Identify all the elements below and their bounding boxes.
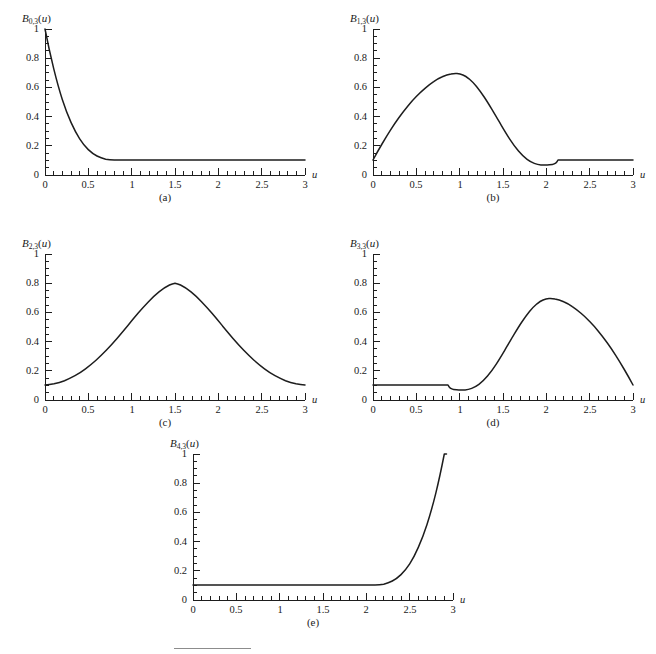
panel-a-plot: [0, 0, 328, 200]
panel-a-xtick-1.5: 1.5: [168, 180, 181, 191]
panel-d-ytick-0.2: 0.2: [342, 366, 367, 377]
panel-d-xtick-0.5: 0.5: [409, 405, 422, 416]
panel-e-ytick-0.6: 0.6: [162, 507, 187, 518]
panel-c-xtick-2: 2: [215, 405, 220, 416]
panel-c-ytick-0.4: 0.4: [14, 337, 39, 348]
panel-e-xtick-3: 3: [450, 605, 455, 616]
panel-b-curve: [373, 73, 633, 165]
panel-e-axes: [193, 454, 453, 600]
panel-d-xtick-0: 0: [370, 405, 375, 416]
panel-c-xtick-2.5: 2.5: [255, 405, 268, 416]
panel-b-xtick-2: 2: [543, 180, 548, 191]
panel-e-x-axis-label: u: [460, 595, 465, 606]
panel-a-xtick-0: 0: [42, 180, 47, 191]
panel-a: B0,3(u): [0, 0, 328, 220]
panel-d-ytick-0.8: 0.8: [342, 278, 367, 289]
panel-e-xtick-1: 1: [277, 605, 282, 616]
panel-a-ytick-0.6: 0.6: [14, 82, 39, 93]
panel-d-x-axis-label: u: [640, 395, 645, 406]
panel-c-plot: [0, 225, 328, 425]
panel-a-ytick-0: 0: [21, 170, 39, 181]
panel-e-ytick-0.8: 0.8: [162, 478, 187, 489]
panel-d-ytick-0.4: 0.4: [342, 337, 367, 348]
panel-e-y-minor-ticks: [193, 461, 197, 592]
panel-c-xtick-1.5: 1.5: [168, 405, 181, 416]
panel-b-x-major-ticks: [416, 168, 633, 175]
panel-e-xtick-0.5: 0.5: [229, 605, 242, 616]
panel-b-xtick-2.5: 2.5: [583, 180, 596, 191]
panel-e-xtick-1.5: 1.5: [316, 605, 329, 616]
panel-d-xtick-2: 2: [543, 405, 548, 416]
panel-e-ytick-1: 1: [169, 449, 187, 460]
panel-d-ytick-0.6: 0.6: [342, 307, 367, 318]
panel-c-ytick-0.6: 0.6: [14, 307, 39, 318]
panel-e-xtick-2: 2: [363, 605, 368, 616]
footer-rule: [174, 648, 251, 649]
panel-c-ytick-0.8: 0.8: [14, 278, 39, 289]
panel-a-ytick-1: 1: [21, 24, 39, 35]
panel-b-x-axis-label: u: [640, 170, 645, 181]
panel-c-x-axis-label: u: [312, 395, 317, 406]
panel-d-plot: [328, 225, 656, 425]
panel-e-plot: [148, 425, 476, 625]
panel-c: B2,3(u): [0, 225, 328, 445]
panel-c-xtick-3: 3: [302, 405, 307, 416]
panel-a-caption: (a): [159, 192, 171, 203]
panel-c-axes: [45, 254, 305, 400]
panel-c-xtick-0: 0: [42, 405, 47, 416]
panel-a-x-axis-label: u: [312, 170, 317, 181]
panel-e-xtick-2.5: 2.5: [403, 605, 416, 616]
panel-b-caption: (b): [487, 192, 500, 203]
panel-b-xtick-1.5: 1.5: [496, 180, 509, 191]
panel-d-xtick-1: 1: [457, 405, 462, 416]
panel-a-axes: [45, 29, 305, 175]
panel-c-ytick-0: 0: [21, 395, 39, 406]
panel-e-x-major-ticks: [236, 593, 453, 600]
panel-d-ytick-0: 0: [349, 395, 367, 406]
panel-a-ytick-0.8: 0.8: [14, 53, 39, 64]
panel-c-y-minor-ticks: [45, 261, 49, 392]
panel-b: B1,3(u): [328, 0, 656, 220]
panel-d-caption: (d): [487, 417, 500, 428]
panel-b-ytick-0.8: 0.8: [342, 53, 367, 64]
panel-b-ytick-0.6: 0.6: [342, 82, 367, 93]
panel-c-ytick-1: 1: [21, 249, 39, 260]
panel-d-x-major-ticks: [416, 393, 633, 400]
panel-a-xtick-3: 3: [302, 180, 307, 191]
panel-a-curve: [45, 29, 305, 160]
panel-d-xtick-2.5: 2.5: [583, 405, 596, 416]
panel-b-y-major-ticks: [373, 29, 380, 146]
panel-e-curve: [193, 454, 447, 585]
panel-a-x-major-ticks: [88, 168, 305, 175]
panel-e-xtick-0: 0: [190, 605, 195, 616]
panel-b-xtick-0: 0: [370, 180, 375, 191]
panel-c-x-major-ticks: [88, 393, 305, 400]
panel-d-y-major-ticks: [373, 254, 380, 371]
panel-b-xtick-1: 1: [457, 180, 462, 191]
panel-a-xtick-2.5: 2.5: [255, 180, 268, 191]
panel-a-xtick-1: 1: [129, 180, 134, 191]
panel-c-xtick-0.5: 0.5: [81, 405, 94, 416]
panel-e-ytick-0: 0: [169, 595, 187, 606]
panel-c-curve: [45, 283, 305, 385]
panel-d-xtick-1.5: 1.5: [496, 405, 509, 416]
panel-d-curve: [373, 298, 633, 390]
panel-b-y-minor-ticks: [373, 36, 377, 167]
panel-a-ytick-0.4: 0.4: [14, 112, 39, 123]
panel-b-plot: [328, 0, 656, 200]
panel-b-xtick-3: 3: [630, 180, 635, 191]
panel-e-ytick-0.2: 0.2: [162, 566, 187, 577]
panel-b-ytick-0.4: 0.4: [342, 112, 367, 123]
panel-a-xtick-2: 2: [215, 180, 220, 191]
panel-b-ytick-0.2: 0.2: [342, 141, 367, 152]
panel-a-y-minor-ticks: [45, 36, 49, 167]
panel-d-xtick-3: 3: [630, 405, 635, 416]
panel-b-xtick-0.5: 0.5: [409, 180, 422, 191]
panel-c-xtick-1: 1: [129, 405, 134, 416]
panel-e-ytick-0.4: 0.4: [162, 537, 187, 548]
panel-a-ytick-0.2: 0.2: [14, 141, 39, 152]
panel-c-y-major-ticks: [45, 254, 52, 371]
panel-d-y-minor-ticks: [373, 261, 377, 392]
panel-c-ytick-0.2: 0.2: [14, 366, 39, 377]
panel-a-xtick-0.5: 0.5: [81, 180, 94, 191]
